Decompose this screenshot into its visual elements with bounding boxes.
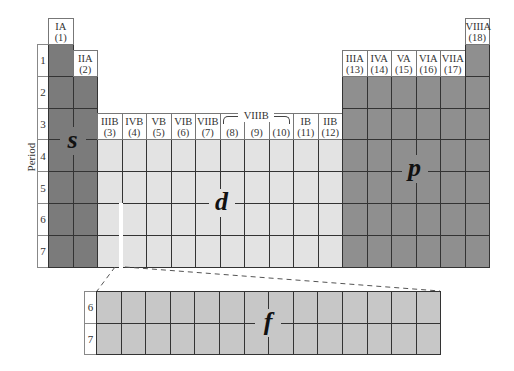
element-cell (440, 76, 466, 109)
group-roman-label: IIB (319, 116, 343, 127)
element-cell (465, 44, 491, 77)
group-roman-label: IIIA (343, 53, 367, 64)
f-element-cell (342, 323, 368, 356)
element-cell (269, 235, 295, 268)
element-cell (48, 76, 74, 109)
group-number-label: (1) (49, 32, 73, 43)
element-cell (73, 235, 99, 268)
f-element-cell (194, 323, 220, 356)
element-cell (465, 108, 491, 141)
f-element-cell (391, 291, 417, 324)
f-block-insertion-gap (119, 203, 123, 268)
element-cell (146, 139, 172, 172)
f-element-cell (416, 323, 442, 356)
f-element-cell (317, 291, 343, 324)
period-axis-label: Period (25, 137, 39, 177)
group-number-label: (15) (392, 64, 416, 75)
element-cell (465, 139, 491, 172)
group-header-7: VIIB(7) (195, 113, 221, 140)
element-cell (293, 171, 319, 204)
group-number-label: (14) (368, 64, 392, 75)
group-header-11: IB(11) (293, 113, 319, 140)
element-cell (440, 171, 466, 204)
p-block-label: p (402, 155, 428, 183)
group-number-label: (8) (221, 127, 245, 138)
group-header-15: VA(15) (391, 50, 417, 77)
group-header-1: IA(1) (48, 18, 74, 45)
element-cell (465, 203, 491, 236)
element-cell (342, 203, 368, 236)
element-cell (122, 203, 148, 236)
group-number-label: (13) (343, 64, 367, 75)
group-roman-label: VA (392, 53, 416, 64)
element-cell (342, 76, 368, 109)
f-element-cell (367, 291, 393, 324)
element-cell (269, 203, 295, 236)
element-cell (367, 203, 393, 236)
group-number-label: (4) (123, 127, 147, 138)
element-cell (367, 139, 393, 172)
group-roman-label: VB (147, 116, 171, 127)
f-element-cell (170, 323, 196, 356)
element-cell (391, 76, 417, 109)
element-cell (171, 203, 197, 236)
element-cell (440, 203, 466, 236)
group-number-label: (18) (466, 32, 490, 43)
group-number-label: (10) (270, 127, 294, 138)
element-cell (465, 171, 491, 204)
element-cell (293, 139, 319, 172)
group-header-4: IVB(4) (122, 113, 148, 140)
element-cell (367, 171, 393, 204)
f-element-cell (194, 291, 220, 324)
f-element-cell (367, 323, 393, 356)
element-cell (416, 203, 442, 236)
element-cell (440, 235, 466, 268)
group-roman-label: VIIB (196, 116, 220, 127)
element-cell (342, 171, 368, 204)
group-number-label: (5) (147, 127, 171, 138)
element-cell (367, 108, 393, 141)
group-roman-label: VIA (417, 53, 441, 64)
group-header-5: VB(5) (146, 113, 172, 140)
group-number-label: (16) (417, 64, 441, 75)
element-cell (342, 139, 368, 172)
element-cell (440, 139, 466, 172)
element-cell (318, 139, 344, 172)
s-block-label: s (60, 127, 86, 155)
group-header-12: IIB(12) (318, 113, 344, 140)
element-cell (269, 171, 295, 204)
element-cell (195, 139, 221, 172)
element-cell (171, 235, 197, 268)
element-cell (244, 171, 270, 204)
f-element-cell (121, 291, 147, 324)
element-cell (293, 235, 319, 268)
group-number-label: (3) (98, 127, 122, 138)
group-number-label: (17) (441, 64, 465, 75)
element-cell (73, 171, 99, 204)
group-header-2: IIA(2) (73, 50, 99, 77)
element-cell (97, 139, 123, 172)
element-cell (220, 139, 246, 172)
element-cell (122, 171, 148, 204)
group-roman-label: IVA (368, 53, 392, 64)
element-cell (171, 139, 197, 172)
element-cell (244, 235, 270, 268)
f-element-cell (219, 323, 245, 356)
group-roman-label: IIA (74, 53, 98, 64)
element-cell (342, 108, 368, 141)
element-cell (269, 139, 295, 172)
f-element-cell (416, 291, 442, 324)
f-element-cell (145, 323, 171, 356)
element-cell (146, 235, 172, 268)
group-roman-label: VIIIA (466, 21, 490, 32)
group-number-label: (7) (196, 127, 220, 138)
element-cell (416, 76, 442, 109)
f-element-cell (293, 291, 319, 324)
f-element-cell (96, 323, 122, 356)
group-roman-label: IVB (123, 116, 147, 127)
f-element-cell (391, 323, 417, 356)
element-cell (244, 203, 270, 236)
f-element-cell (170, 291, 196, 324)
f-element-cell (121, 323, 147, 356)
f-element-cell (145, 291, 171, 324)
